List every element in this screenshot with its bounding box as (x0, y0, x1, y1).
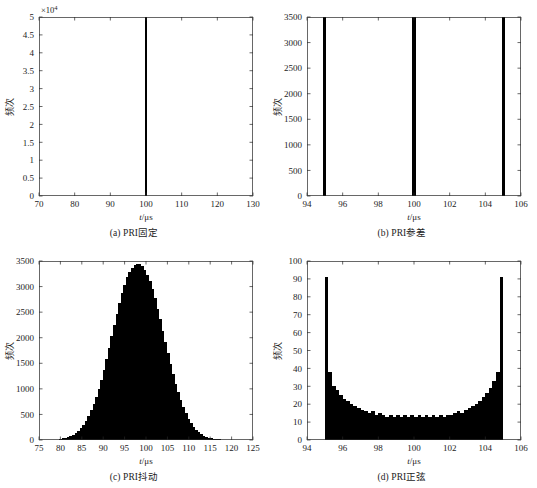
svg-text:1500: 1500 (284, 114, 303, 124)
svg-text:100: 100 (407, 443, 421, 453)
svg-text:125: 125 (246, 443, 260, 453)
svg-text:115: 115 (204, 443, 218, 453)
svg-text:102: 102 (443, 199, 457, 209)
svg-text:1: 1 (30, 155, 35, 165)
svg-text:2: 2 (30, 120, 35, 130)
panel-a-pri-fixed: 70809010011012013000.511.522.533.544.55×… (0, 0, 268, 244)
svg-text:100: 100 (289, 256, 303, 266)
svg-text:3500: 3500 (16, 256, 35, 266)
svg-text:106: 106 (514, 199, 528, 209)
svg-text:102: 102 (443, 443, 457, 453)
figure-pri-histograms: 70809010011012013000.511.522.533.544.55×… (0, 0, 537, 488)
svg-text:3000: 3000 (16, 282, 35, 292)
svg-text:0: 0 (30, 435, 35, 445)
svg-text:500: 500 (21, 410, 35, 420)
svg-text:2000: 2000 (16, 333, 35, 343)
svg-text:98: 98 (374, 443, 384, 453)
svg-text:0: 0 (298, 191, 303, 201)
svg-text:3000: 3000 (284, 38, 303, 48)
svg-text:×104: ×104 (41, 4, 58, 16)
svg-text:3.5: 3.5 (23, 66, 35, 76)
svg-text:0: 0 (298, 435, 303, 445)
caption-b: (b) PRI参差 (268, 225, 536, 239)
svg-text:80: 80 (293, 292, 303, 302)
svg-text:70: 70 (293, 310, 303, 320)
svg-text:4: 4 (30, 48, 35, 58)
svg-text:2.5: 2.5 (23, 102, 35, 112)
caption-d: (d) PRI正弦 (268, 469, 536, 483)
svg-text:85: 85 (77, 443, 87, 453)
svg-text:110: 110 (182, 443, 196, 453)
svg-text:95: 95 (120, 443, 130, 453)
svg-text:3500: 3500 (284, 12, 303, 22)
svg-text:80: 80 (70, 199, 80, 209)
svg-text:1000: 1000 (16, 384, 35, 394)
svg-text:频次: 频次 (4, 98, 15, 116)
svg-text:60: 60 (293, 328, 303, 338)
svg-text:70: 70 (35, 199, 45, 209)
svg-text:94: 94 (303, 443, 313, 453)
svg-text:40: 40 (293, 364, 303, 374)
svg-text:t/μs: t/μs (407, 456, 421, 466)
svg-text:98: 98 (374, 199, 384, 209)
svg-text:80: 80 (56, 443, 66, 453)
svg-text:120: 120 (225, 443, 239, 453)
svg-text:5: 5 (30, 12, 35, 22)
svg-text:2500: 2500 (16, 307, 35, 317)
svg-text:104: 104 (479, 199, 493, 209)
svg-text:0.5: 0.5 (23, 173, 35, 183)
svg-text:500: 500 (289, 166, 303, 176)
svg-text:频次: 频次 (4, 342, 15, 360)
svg-text:1.5: 1.5 (23, 138, 35, 148)
chart-c-canvas: 7580859095100105110115120125050010001500… (0, 244, 268, 488)
svg-text:90: 90 (99, 443, 109, 453)
svg-text:10: 10 (293, 417, 303, 427)
svg-text:50: 50 (293, 346, 303, 356)
svg-text:100: 100 (139, 443, 153, 453)
svg-text:106: 106 (514, 443, 528, 453)
svg-text:105: 105 (161, 443, 175, 453)
svg-text:96: 96 (338, 199, 348, 209)
svg-text:30: 30 (293, 382, 303, 392)
svg-text:t/μs: t/μs (139, 212, 153, 222)
svg-text:100: 100 (139, 199, 153, 209)
svg-text:110: 110 (175, 199, 189, 209)
chart-a-canvas: 70809010011012013000.511.522.533.544.55×… (0, 0, 268, 244)
svg-text:1500: 1500 (16, 358, 35, 368)
svg-text:2500: 2500 (284, 63, 303, 73)
panel-b-pri-stagger: 9496981001021041060500100015002000250030… (268, 0, 536, 244)
chart-d-canvas: 9496981001021041060102030405060708090100… (268, 244, 536, 488)
svg-text:90: 90 (106, 199, 116, 209)
panel-c-pri-jitter: 7580859095100105110115120125050010001500… (0, 244, 268, 488)
svg-text:96: 96 (338, 443, 348, 453)
svg-text:t/μs: t/μs (407, 212, 421, 222)
svg-text:90: 90 (293, 274, 303, 284)
svg-text:20: 20 (293, 399, 303, 409)
svg-text:2000: 2000 (284, 89, 303, 99)
svg-text:频次: 频次 (272, 342, 283, 360)
svg-text:4.5: 4.5 (23, 30, 35, 40)
chart-b-canvas: 9496981001021041060500100015002000250030… (268, 0, 536, 244)
panel-d-pri-sinusoidal: 9496981001021041060102030405060708090100… (268, 244, 536, 488)
svg-text:75: 75 (35, 443, 45, 453)
svg-text:1000: 1000 (284, 140, 303, 150)
svg-text:t/μs: t/μs (139, 456, 153, 466)
caption-c: (c) PRI抖动 (0, 469, 268, 483)
svg-text:94: 94 (303, 199, 313, 209)
svg-text:130: 130 (246, 199, 260, 209)
svg-text:频次: 频次 (272, 98, 283, 116)
svg-text:100: 100 (407, 199, 421, 209)
svg-text:3: 3 (30, 84, 35, 94)
svg-text:120: 120 (211, 199, 225, 209)
svg-text:0: 0 (30, 191, 35, 201)
caption-a: (a) PRI固定 (0, 225, 268, 239)
svg-text:104: 104 (479, 443, 493, 453)
